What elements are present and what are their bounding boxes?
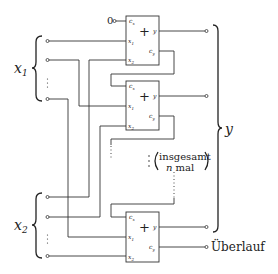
plus-icon: + [139, 220, 150, 235]
circuit-svg: cx x1 x2 y cy + cx x1 x2 y cy + cx x1 x2… [0, 0, 278, 274]
plus-icon: + [139, 89, 150, 104]
svg-text:y: y [152, 223, 157, 231]
adder-1: cx x1 x2 y cy + [126, 16, 159, 65]
repeat-note: insgesamt nmal [148, 151, 210, 173]
svg-text:nmal: nmal [166, 162, 194, 173]
plus-icon: + [139, 24, 150, 39]
overflow-terminal [205, 246, 208, 249]
adder-diagram: cx x1 x2 y cy + cx x1 x2 y cy + cx x1 x2… [0, 0, 278, 274]
svg-text:insgesamt: insgesamt [159, 151, 211, 162]
adder-2: cx x1 x2 y cy + [126, 81, 159, 131]
y-brace [213, 25, 222, 232]
y-label: y [224, 121, 234, 137]
x2-brace [32, 193, 42, 258]
svg-text:y: y [152, 92, 157, 100]
overflow-label: Überlauf [211, 238, 266, 254]
x1-brace [32, 36, 42, 101]
x1-label: x1 [14, 60, 28, 78]
svg-text:y: y [152, 27, 157, 35]
x2-label: x2 [14, 217, 28, 235]
carry-in-zero: 0 [107, 15, 113, 26]
adder-n: cx x1 x2 y cy + [126, 212, 159, 262]
